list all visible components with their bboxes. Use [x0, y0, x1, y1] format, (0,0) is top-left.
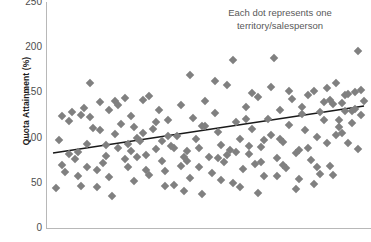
annotation-text: Each dot represents one territory/salesp… [196, 6, 364, 32]
annotation-line-1: Each dot represents one [196, 6, 364, 19]
x-axis-line [46, 228, 371, 229]
y-tick-label-50: 50 [8, 178, 42, 188]
plot-area [46, 2, 371, 228]
trend-line [46, 2, 371, 228]
y-tick-label-100: 100 [8, 133, 42, 143]
y-tick-label-200: 200 [8, 42, 42, 52]
y-axis-tick-labels: 050100150200250 [4, 0, 42, 242]
y-tick-label-250: 250 [8, 0, 42, 7]
annotation-line-2: territory/salesperson [196, 19, 364, 32]
y-tick-label-150: 150 [8, 87, 42, 97]
scatter-chart: Quota Attainment (%) 050100150200250 Eac… [0, 0, 371, 242]
y-tick-label-0: 0 [8, 223, 42, 233]
